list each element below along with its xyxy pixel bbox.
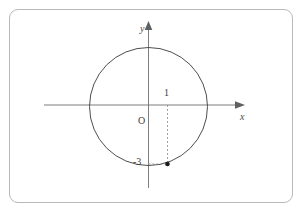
marked-point [165, 162, 170, 167]
coordinate-plane-figure [0, 0, 304, 215]
y-axis-label: y [140, 24, 144, 34]
origin-label: O [138, 116, 145, 126]
y-axis-arrow-icon [145, 21, 153, 30]
x-axis-arrow-icon [235, 101, 245, 109]
y-tick-label-neg3: -3 [133, 157, 141, 167]
x-tick-label-1: 1 [164, 88, 169, 98]
x-axis-label: x [240, 112, 244, 122]
